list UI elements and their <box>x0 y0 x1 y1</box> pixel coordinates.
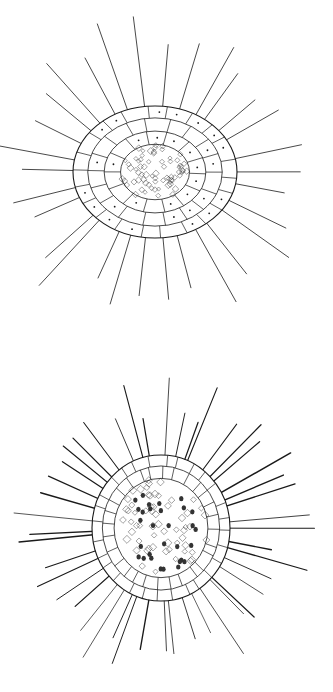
oval-radiolarian-figure <box>0 17 301 304</box>
illustration-canvas <box>0 0 333 692</box>
round-radiolarian-figure <box>14 378 314 663</box>
